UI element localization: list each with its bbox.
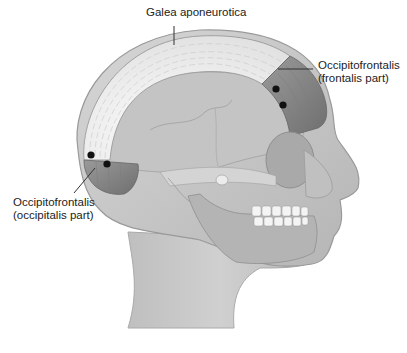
label-text-line1: Occipitofrontalis <box>13 196 95 209</box>
label-galea-aponeurotica: Galea aponeurotica <box>146 6 246 19</box>
label-text-line2: (frontalis part) <box>318 72 400 85</box>
label-occipitalis-part: Occipitofrontalis (occipitalis part) <box>13 196 95 222</box>
frontalis-marker-2 <box>279 101 286 108</box>
label-text-line2: (occipitalis part) <box>13 209 95 222</box>
frontalis-marker-1 <box>272 85 279 92</box>
label-frontalis-part: Occipitofrontalis (frontalis part) <box>318 59 400 85</box>
occipitalis-marker-1 <box>87 151 94 158</box>
external-acoustic-meatus <box>216 175 228 185</box>
label-text-line1: Occipitofrontalis <box>318 59 400 72</box>
head-illustration <box>0 0 407 353</box>
occipitalis-marker-2 <box>103 160 110 167</box>
anatomy-figure: Galea aponeurotica Occipitofrontalis (fr… <box>0 0 407 353</box>
label-text: Galea aponeurotica <box>146 6 246 18</box>
